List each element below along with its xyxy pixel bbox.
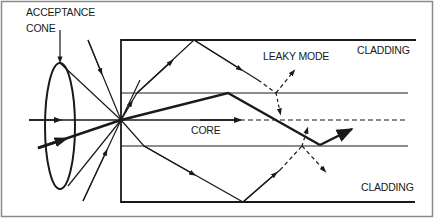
leaky-mode-label: LEAKY MODE [263,51,329,62]
core-label: CORE [191,125,221,136]
acceptance-cone-ellipse [45,63,75,189]
acceptance-cone-label-line1: ACCEPTANCE [26,7,95,18]
acceptance-cone-label-line2: CONE [26,23,56,34]
guided-ray-arrow-in [38,140,62,148]
lower-ray [121,120,324,202]
leaky-ray-solid [121,40,258,120]
lower-ray-arrow-up [243,174,275,202]
lower-ray-dashed [280,146,302,170]
incident-ray-arrow-top [88,40,101,72]
guided-ray-exit [320,129,352,145]
lower-ray-arrow [144,146,193,174]
cladding-bottom-label: CLADDING [361,182,414,193]
fiber-structure [121,40,416,202]
guided-ray-path [121,93,320,145]
cladding-top-label: CLADDING [357,45,410,56]
lower-ray-refract [302,146,324,170]
incident-ray-arrow-bottom [83,152,106,201]
cladding-outer-boundary [121,40,416,202]
leaky-ray-arrow-down [194,40,240,69]
cone-top-edge [60,63,121,120]
leaky-ray-arrow-up [137,62,171,93]
leaky-ray-reflect [276,72,293,93]
incident-rays [29,40,405,201]
leaky-ray-dashed [258,80,276,93]
acceptance-cone [45,30,121,189]
leaky-ray-refract [276,93,280,112]
